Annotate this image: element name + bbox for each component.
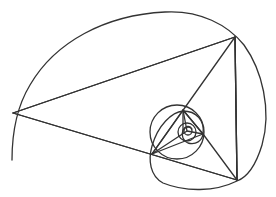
segment-a-to-d	[13, 113, 237, 180]
large-triangle-outline	[13, 37, 237, 180]
golden-spiral-diagram	[0, 0, 276, 197]
segment-b-to-c	[235, 37, 237, 180]
segment-b-to-d	[152, 37, 235, 154]
segment-f-to-c	[203, 134, 237, 180]
large-triangle	[13, 37, 237, 180]
